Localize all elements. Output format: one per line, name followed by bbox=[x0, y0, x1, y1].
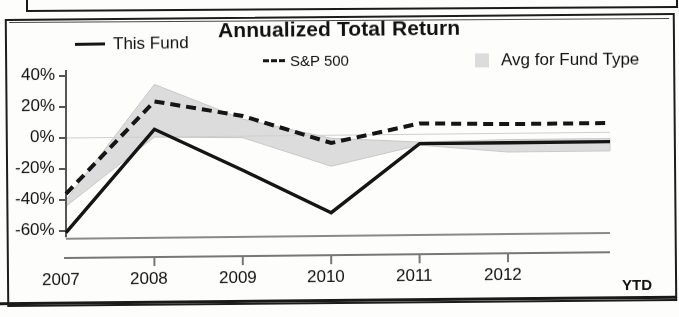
x-axis-label-2007: 2007 bbox=[42, 270, 80, 290]
legend-label-this-fund: This Fund bbox=[113, 33, 189, 53]
x-axis-label-2010: 2010 bbox=[307, 267, 345, 287]
y-axis-label-0pct: 0% bbox=[30, 127, 55, 147]
legend-label-sp-500: S&P 500 bbox=[290, 52, 349, 69]
legend-item-sp-500: S&P 500 bbox=[263, 52, 349, 70]
ytd-label: YTD bbox=[622, 276, 652, 293]
legend-item-this-fund: This Fund bbox=[75, 33, 189, 55]
y-axis-label-20pct: 20% bbox=[21, 96, 55, 116]
solid-line-swatch-icon bbox=[75, 42, 105, 45]
legend-label-avg-for-fund-type: Avg for Fund Type bbox=[501, 50, 639, 70]
y-axis-label-40pct: 40% bbox=[21, 65, 55, 85]
x-axis-label-2011: 2011 bbox=[395, 266, 432, 286]
axis-lines-and-ticks bbox=[59, 70, 610, 266]
x-axis-label-2012: 2012 bbox=[484, 265, 522, 285]
y-axis-label-neg20pct: -20% bbox=[15, 158, 55, 178]
legend-item-avg-for-fund-type: Avg for Fund Type bbox=[475, 50, 639, 71]
x-axis-label-2009: 2009 bbox=[219, 268, 257, 288]
annualized-total-return-chart: Annualized Total Return This Fund S&P 50… bbox=[0, 0, 679, 317]
avg-fund-type-band bbox=[66, 84, 610, 206]
y-axis-label-neg60pct: -60% bbox=[15, 220, 55, 240]
gray-box-swatch-icon bbox=[475, 53, 489, 67]
chart-title: Annualized Total Return bbox=[218, 16, 460, 43]
dashed-line-swatch-icon bbox=[263, 59, 285, 62]
x-axis-label-2008: 2008 bbox=[130, 269, 168, 289]
y-axis-label-neg40pct: -40% bbox=[15, 189, 55, 209]
